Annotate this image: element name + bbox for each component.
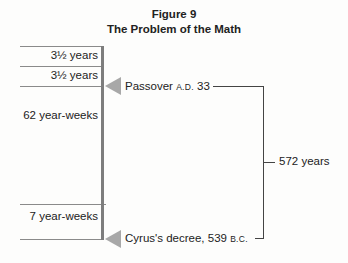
segment-divider [20, 86, 104, 87]
bracket-top [213, 86, 264, 87]
figure-number: Figure 9 [0, 8, 348, 20]
event-year: 33 [197, 80, 210, 92]
segment-label: 62 year-weeks [10, 109, 98, 121]
event-passover: Passover A.D. 33 [125, 80, 210, 92]
event-era: A.D. [176, 82, 194, 92]
segment-divider [20, 204, 106, 205]
event-era: B.C. [230, 234, 248, 244]
event-name: Passover [125, 80, 173, 92]
segment-label: 7 year-weeks [10, 210, 98, 222]
event-year: 539 [208, 232, 227, 244]
segment-label: 3½ years [20, 69, 98, 81]
bracket-tick [264, 162, 275, 163]
timeline-bar [101, 46, 104, 240]
arrow-icon [105, 77, 121, 95]
span-label: 572 years [279, 155, 330, 167]
event-cyrus-decree: Cyrus's decree, 539 B.C. [125, 232, 248, 244]
figure-title: The Problem of the Math [0, 23, 348, 35]
bracket-bottom [255, 238, 264, 239]
segment-divider [20, 66, 104, 67]
event-name: Cyrus's decree, [125, 232, 205, 244]
segment-divider [20, 46, 104, 47]
segment-divider [20, 239, 104, 240]
arrow-icon [105, 230, 121, 248]
segment-label: 3½ years [20, 49, 98, 61]
